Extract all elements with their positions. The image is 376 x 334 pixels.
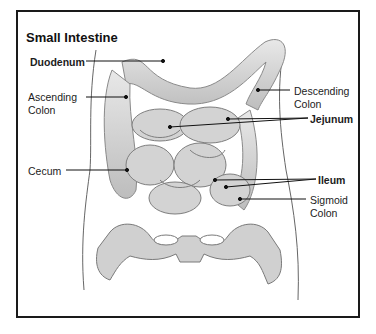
label-ileum: Ileum bbox=[318, 174, 345, 186]
diagram-title: Small Intestine bbox=[26, 30, 118, 45]
label-cecum: Cecum bbox=[28, 165, 61, 177]
pelvis-icon bbox=[97, 224, 282, 284]
label-jejunum: Jejunum bbox=[310, 113, 353, 125]
label-duodenum: Duodenum bbox=[30, 56, 85, 68]
label-sigmoid-colon-line2: Colon bbox=[310, 207, 337, 219]
label-descending-colon-line1: Descending bbox=[294, 85, 349, 97]
label-ascending-colon-line2: Colon bbox=[28, 104, 55, 116]
label-sigmoid-colon-line1: Sigmoid bbox=[310, 194, 348, 206]
label-ascending-colon-line1: Ascending bbox=[28, 91, 77, 103]
label-descending-colon-line2: Colon bbox=[294, 98, 321, 110]
